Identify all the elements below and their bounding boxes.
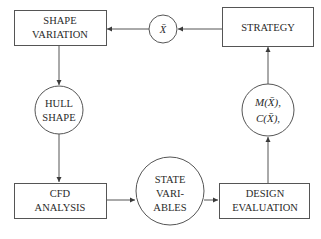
node-label-line: C(X̄), [256,112,280,125]
node-state-variables: STATE VARI- ABLES [136,157,204,225]
node-label-line: CFD [50,188,71,199]
node-label-line: X̄ [159,24,167,35]
node-label-line: VARIATION [32,29,88,40]
node-label-line: VARI- [156,188,184,199]
node-label-line: SHAPE [43,15,76,26]
node-xbar: X̄ [149,15,177,43]
flowchart-canvas: SHAPE VARIATION X̄ STRATEGY HULL SHAPE M… [0,0,321,239]
node-objectives: M(X̄), C(X̄), [242,84,294,136]
node-label-line: STRATEGY [241,22,295,33]
node-label-line: M(X̄), [254,96,281,109]
node-label-line: ABLES [153,202,186,213]
node-cfd-analysis: CFD ANALYSIS [15,184,107,219]
node-design-evaluation: DESIGN EVALUATION [220,184,310,219]
node-label-line: ANALYSIS [35,202,86,213]
node-strategy: STRATEGY [223,8,314,47]
node-hull-shape: HULL SHAPE [35,86,83,134]
node-label-line: HULL [45,98,73,109]
node-shape-variation: SHAPE VARIATION [15,11,107,46]
node-label-line: STATE [155,174,186,185]
node-label-line: SHAPE [42,112,75,123]
node-label-line: EVALUATION [232,202,298,213]
node-label-line: DESIGN [246,188,285,199]
